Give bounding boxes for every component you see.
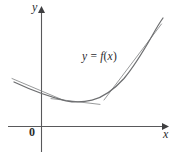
function-label: y = f(x) — [82, 51, 117, 63]
y-axis-arrowhead — [38, 6, 45, 13]
y-axis-label: y — [32, 1, 37, 13]
x-axis-label: x — [163, 128, 168, 140]
function-label-paren-close: ) — [113, 50, 117, 62]
figure-container: y x 0 y = f(x) — [0, 0, 177, 158]
tangent-line-left — [12, 79, 64, 101]
graph-canvas — [0, 0, 177, 158]
origin-label: 0 — [29, 126, 35, 138]
function-label-equals: = — [87, 50, 100, 62]
